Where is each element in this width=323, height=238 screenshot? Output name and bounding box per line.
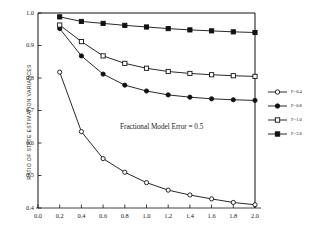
legend-entry-F=0.8[interactable] bbox=[268, 104, 287, 108]
legend-entry-F=2.0[interactable] bbox=[268, 132, 287, 136]
legend-markers bbox=[0, 0, 323, 238]
legend-entry-F=1.0[interactable] bbox=[268, 118, 287, 122]
legend-label-F=2.0: F=2.0 bbox=[291, 131, 302, 136]
legend-label-F=1.0: F=1.0 bbox=[291, 117, 302, 122]
legend-label-F=0.4: F=0.4 bbox=[291, 89, 302, 94]
legend-label-F=0.8: F=0.8 bbox=[291, 103, 302, 108]
chart-figure: RATIO OF STATE ESTIMATION VARIANCES 0.40… bbox=[0, 0, 323, 238]
legend-entry-F=0.4[interactable] bbox=[268, 90, 287, 94]
